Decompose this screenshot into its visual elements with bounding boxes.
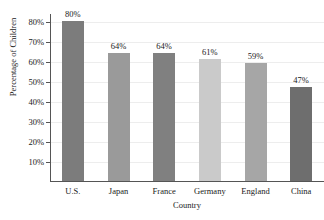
x-tick-label: France [153, 186, 176, 196]
gridline [50, 42, 324, 43]
y-tick-label: 70% [28, 37, 44, 47]
gridline [50, 162, 324, 163]
y-tick-label: 80% [28, 17, 44, 27]
x-tick-label: China [291, 186, 311, 196]
bar: 64% [108, 53, 130, 181]
x-tick-label: Germany [194, 186, 226, 196]
bar-value-label: 80% [65, 9, 81, 19]
x-tick-label: England [241, 186, 269, 196]
y-tick-mark [46, 162, 50, 163]
bar-value-label: 64% [156, 41, 172, 51]
gridline [50, 62, 324, 63]
bar: 47% [290, 87, 312, 181]
y-tick-mark [46, 62, 50, 63]
gridline [50, 22, 324, 23]
y-tick-label: 10% [28, 157, 44, 167]
gridline [50, 142, 324, 143]
x-axis-spine [50, 181, 324, 182]
gridline [50, 82, 324, 83]
y-axis-title: Percentage of Children [8, 0, 18, 122]
bar: 59% [245, 63, 267, 181]
chart-title [0, 0, 324, 3]
bar-value-label: 61% [202, 47, 218, 57]
y-tick-label: 20% [28, 137, 44, 147]
y-tick-mark [46, 82, 50, 83]
x-tick-label: Japan [109, 186, 128, 196]
y-tick-label: 30% [28, 117, 44, 127]
gridline [50, 122, 324, 123]
plot-area: 80%64%64%61%59%47% 10%20%30%40%50%60%70%… [50, 14, 324, 182]
x-axis-title: Country [50, 200, 324, 210]
x-tick-label: U.S. [65, 186, 80, 196]
y-tick-label: 40% [28, 97, 44, 107]
y-tick-mark [46, 122, 50, 123]
bar: 61% [199, 59, 221, 181]
gridline [50, 102, 324, 103]
bar-value-label: 47% [293, 75, 309, 85]
y-tick-mark [46, 42, 50, 43]
bar: 64% [153, 53, 175, 181]
y-axis-spine [50, 14, 51, 182]
y-tick-label: 60% [28, 57, 44, 67]
bar-value-label: 59% [248, 51, 264, 61]
y-tick-mark [46, 22, 50, 23]
bar: 80% [62, 21, 84, 181]
bar-value-label: 64% [111, 41, 127, 51]
y-tick-mark [46, 142, 50, 143]
bar-chart: Percentage of Children 80%64%64%61%59%47… [0, 0, 324, 220]
y-tick-mark [46, 102, 50, 103]
y-tick-label: 50% [28, 77, 44, 87]
